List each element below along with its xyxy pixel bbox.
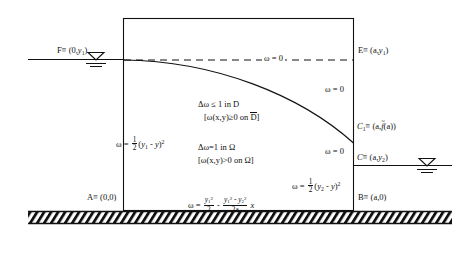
bottom-fraction-2: y12 - y222a [223, 196, 248, 213]
diagram-canvas: F≡ (0,y1) E≡ (a,y1) C1≡ (a,~f(a)) C≡ (a,… [0, 0, 464, 255]
right-wall-prefix: ω = [292, 181, 307, 191]
right-wall-frac-den: 2 [308, 185, 314, 193]
point-B-eq: ≡ (a,0) [364, 192, 387, 202]
point-E-eq: ≡ (a, [363, 45, 379, 55]
left-wall-frac-num: 1 [132, 136, 138, 143]
point-F-eq: ≡ (0, [62, 45, 78, 55]
domain-D-line1: Δω ≤ 1 in D [198, 100, 259, 109]
label-omega-zero-right-lower: ω = 0 [325, 147, 344, 156]
bottom-prefix: ω = [188, 200, 203, 210]
bottom-frac2-y2-sup: 2 [244, 196, 246, 201]
bottom-minus: - [215, 200, 222, 210]
annotation-domain-D: Δω ≤ 1 in D [ω(x,y)≥0 on D] [198, 100, 259, 122]
point-label-F: F≡ (0,y1) [57, 46, 87, 56]
label-omega-zero-top: ω = 0 [262, 54, 285, 63]
point-C-eq: ≡ (a, [363, 152, 379, 162]
domain-D-line2-open: [ω(x,y)≥0 on [204, 112, 250, 122]
left-wall-minus: - [148, 139, 155, 149]
left-wall-frac-den: 2 [132, 143, 138, 151]
point-label-A: A≡ (0,0) [87, 193, 116, 202]
bottom-frac1-den: 2 [204, 205, 214, 213]
tilde-accent-icon: ~ [381, 118, 383, 125]
bottom-suffix: x [248, 200, 254, 210]
bottom-frac1-sup: 2 [210, 196, 212, 201]
annotation-domain-omega: Δω=1 in Ω [ω(x,y)>0 on Ω] [198, 143, 254, 165]
point-C1-eq: ≡ (a, [366, 121, 382, 131]
bottom-frac2-num: y12 - y22 [223, 196, 248, 205]
equation-bottom: ω = y122 - y12 - y222a x [188, 196, 254, 213]
left-wall-prefix: ω = [116, 139, 131, 149]
point-label-C: C≡ (a,y2) [357, 153, 388, 163]
bottom-fraction-1: y122 [204, 196, 214, 213]
domain-D-line2: [ω(x,y)≥0 on D] [204, 112, 259, 122]
point-label-B: B≡ (a,0) [358, 193, 386, 202]
point-F-close: ) [85, 45, 88, 55]
point-C1-arg: (a)) [384, 121, 396, 131]
point-C1-fn-tilde-group: ~f [381, 122, 383, 131]
right-wall-minus: - [324, 181, 331, 191]
point-C-close: ) [385, 152, 388, 162]
domain-omega-line2: [ω(x,y)>0 on Ω] [198, 156, 254, 165]
label-omega-zero-right-upper: ω = 0 [325, 85, 344, 94]
point-label-C1: C1≡ (a,~f(a)) [357, 122, 396, 132]
point-label-E: E≡ (a,y1) [358, 46, 388, 56]
equation-right-wall: ω = 12(y2 - y)2 [292, 178, 340, 194]
point-E-close: ) [386, 45, 389, 55]
right-wall-fraction: 12 [308, 178, 314, 194]
right-wall-power: 2 [338, 181, 341, 187]
right-wall-frac-num: 1 [308, 178, 314, 185]
point-A-eq: ≡ (0,0) [93, 192, 116, 202]
bottom-frac2-den: 2a [223, 205, 248, 213]
domain-omega-line1: Δω=1 in Ω [198, 143, 254, 152]
left-wall-fraction: 12 [132, 136, 138, 152]
equation-left-wall: ω = 12(y1 - y)2 [116, 136, 164, 152]
ground-hatch-band [28, 212, 452, 224]
left-wall-power: 2 [162, 139, 165, 145]
bottom-frac1-num: y12 [204, 196, 214, 205]
domain-D-line2-close: ] [257, 112, 260, 122]
